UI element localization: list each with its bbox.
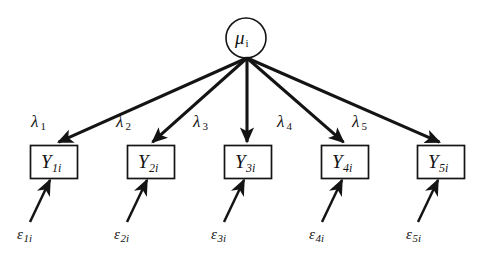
loading-arrow-1: [59, 58, 248, 142]
loading-arrow-4: [247, 58, 344, 142]
loading-arrow-5: [247, 58, 440, 142]
diagram-svg: [0, 0, 483, 262]
indicator-box-3: [225, 146, 272, 179]
error-arrow-group: [30, 180, 438, 222]
loading-arrow-2: [153, 58, 248, 142]
indicator-box-5: [418, 146, 465, 179]
indicator-box-1: [31, 146, 78, 179]
path-diagram-canvas: μi Y1i Y2i Y3i Y4i Y5i λ1 λ2 λ3 λ4 λ5 ε1…: [0, 0, 483, 262]
loading-arrow-group: [59, 58, 440, 142]
error-arrow-4: [322, 180, 342, 222]
error-arrow-2: [127, 180, 147, 222]
indicator-box-4: [322, 146, 369, 179]
error-arrow-5: [418, 180, 438, 222]
indicator-box-group: [31, 146, 465, 179]
error-arrow-1: [30, 180, 50, 222]
latent-variable-circle: [226, 18, 266, 58]
error-arrow-3: [224, 180, 244, 222]
indicator-box-2: [128, 146, 175, 179]
